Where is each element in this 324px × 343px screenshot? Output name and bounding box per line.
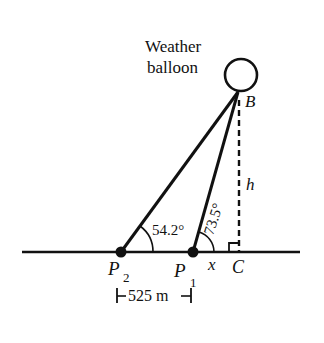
weather-balloon-diagram: Weather balloon B h 54.2° 73.5° P 2 P 1 … xyxy=(0,0,324,343)
point-p2 xyxy=(116,247,127,258)
point-label-p1: P xyxy=(173,260,186,281)
point-label-b: B xyxy=(245,92,256,111)
distance-label-x: x xyxy=(207,255,216,274)
point-label-p2: P xyxy=(107,258,120,279)
balloon-label-line2: balloon xyxy=(147,58,198,77)
point-label-p1-subscript: 1 xyxy=(190,275,197,290)
right-angle-marker xyxy=(229,243,239,252)
point-label-p2-subscript: 2 xyxy=(123,270,130,285)
dimension-label-525m: 525 m xyxy=(128,287,169,304)
height-label-h: h xyxy=(246,175,255,194)
balloon-circle xyxy=(225,59,257,91)
angle-label-p2: 54.2° xyxy=(152,222,184,238)
point-label-c: C xyxy=(232,257,245,277)
point-p1 xyxy=(188,247,199,258)
balloon-label-line1: Weather xyxy=(145,37,202,56)
